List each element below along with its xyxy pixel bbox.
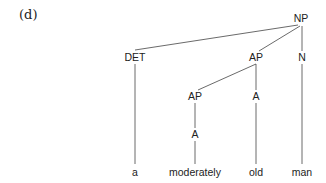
tree-node-w_moderately: moderately [169,166,222,178]
syntax-tree: NPDETAPNAPAAamoderatelyoldman [0,0,326,183]
tree-edges [135,25,302,164]
tree-node-ap2: AP [188,90,202,102]
tree-edge-ap1-ap2 [198,64,256,90]
tree-node-det: DET [125,51,147,63]
tree-edge-np-det [135,25,298,50]
tree-node-w_a: a [132,166,138,178]
tree-node-w_old: old [249,166,263,178]
tree-node-w_man: man [292,166,313,178]
tree-node-np: NP [294,12,309,24]
tree-node-ap1: AP [249,51,263,63]
tree-node-a2: A [191,128,198,140]
tree-node-n: N [298,51,306,63]
tree-node-a1: A [252,90,259,102]
